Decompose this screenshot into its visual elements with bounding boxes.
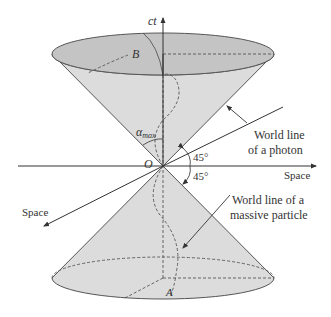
space-diag-label: Space: [22, 206, 48, 218]
particle-label-line1: World line of a: [232, 193, 305, 207]
angle-upper-label: 45°: [193, 151, 208, 163]
ct-label: ct: [148, 14, 157, 28]
point-a-label: A: [165, 286, 173, 298]
space-right-label: Space: [284, 169, 310, 181]
particle-label-line2: massive particle: [230, 208, 308, 222]
origin-label: O: [144, 157, 153, 171]
light-cone-diagram: ct B A O αmax 45° 45° World line of a ph…: [0, 0, 331, 317]
photon-label-line2: of a photon: [248, 143, 303, 157]
photon-label-line1: World line: [254, 128, 305, 142]
photon-pointer: [227, 106, 247, 123]
angle-lower-label: 45°: [193, 170, 208, 182]
point-b-label: B: [132, 47, 140, 61]
